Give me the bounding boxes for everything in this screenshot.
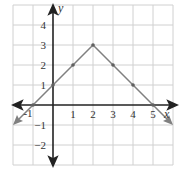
point — [131, 83, 135, 87]
point — [71, 63, 75, 67]
point — [151, 103, 155, 107]
x-tick-label: 4 — [130, 108, 136, 120]
y-tick-label: −1 — [34, 119, 46, 131]
point — [111, 63, 115, 67]
point — [51, 83, 55, 87]
x-tick-label: 1 — [70, 108, 76, 120]
y-tick-label: 3 — [41, 39, 47, 51]
y-axis-up-arrow-icon — [49, 5, 57, 14]
y-tick-label: 2 — [41, 59, 47, 71]
x-axis-label: x — [163, 107, 170, 121]
x-axis-right-arrow-icon — [168, 101, 177, 109]
x-tick-label: 5 — [150, 108, 156, 120]
y-tick-label: 1 — [41, 79, 47, 91]
coordinate-plane: -1 1 2 3 4 5 4 3 2 1 −1 −2 y x — [0, 0, 182, 170]
x-tick-label: 3 — [110, 108, 116, 120]
y-axis-label: y — [57, 1, 64, 15]
point — [91, 43, 95, 47]
x-tick-label: -1 — [23, 107, 32, 119]
x-tick-label: 2 — [90, 108, 96, 120]
x-axis-left-arrow-icon — [13, 101, 22, 109]
y-tick-label: 4 — [41, 19, 47, 31]
y-tick-label: −2 — [34, 139, 46, 151]
